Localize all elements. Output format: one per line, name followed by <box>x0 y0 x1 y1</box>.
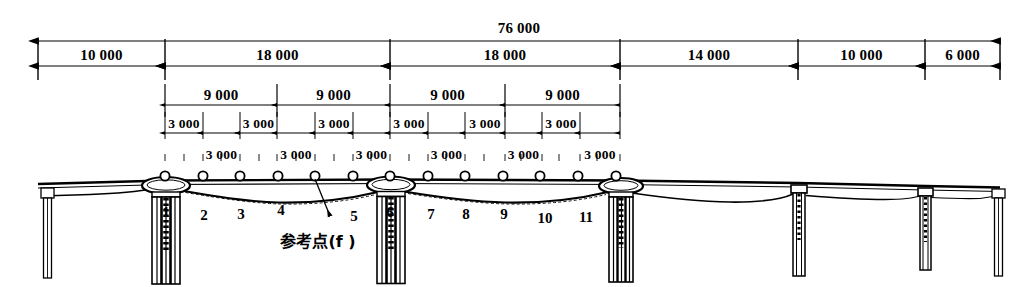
abutment-right <box>992 189 1005 276</box>
span-dimension-label: 6 000 <box>945 47 980 64</box>
measurement-point-circle[interactable] <box>235 171 244 180</box>
three-thousand-upper-label: 3 000 <box>243 116 274 132</box>
span-dimension-label: 18 000 <box>484 47 526 64</box>
three-thousand-upper-label: 3 000 <box>318 116 349 132</box>
three-thousand-lower-label: 3 000 <box>356 147 387 163</box>
span-dimension-label: 14 000 <box>688 47 730 64</box>
pier-1 <box>142 177 190 284</box>
measurement-point-number: 5 <box>350 208 358 225</box>
three-thousand-upper-label: 3 000 <box>393 116 424 132</box>
three-thousand-lower-label: 3 000 <box>206 147 237 163</box>
reference-point-annotation: 参考点(f ) <box>280 228 355 252</box>
nine-thousand-dimension-label: 9 000 <box>545 87 580 104</box>
three-thousand-upper-label: 3 000 <box>469 116 500 132</box>
girder-soffit-span-3 <box>632 193 793 202</box>
measurement-point-circle[interactable] <box>535 171 544 180</box>
three-thousand-upper-label: 3 000 <box>168 116 199 132</box>
measurement-point-number: 6 <box>386 204 394 221</box>
nine-thousand-dimension-label: 9 000 <box>316 87 351 104</box>
pier-4 <box>791 185 807 276</box>
measurement-point-circle[interactable] <box>198 171 207 180</box>
span-dimension-label: 10 000 <box>840 47 882 64</box>
measurement-point-number: 10 <box>538 210 553 227</box>
three-thousand-lower-label: 3 000 <box>584 147 615 163</box>
three-thousand-lower-label: 3 000 <box>431 147 462 163</box>
three-thousand-lower-label: 3 000 <box>280 147 311 163</box>
measurement-point-number: 3 <box>237 206 245 223</box>
bridge-structure-group <box>38 171 1005 284</box>
measurement-point-number: 2 <box>200 207 208 224</box>
drawing-canvas <box>0 0 1027 287</box>
measurement-point-circle[interactable] <box>385 171 394 180</box>
three-thousand-upper-label: 3 000 <box>545 116 576 132</box>
nine-thousand-dimension-label: 9 000 <box>204 87 239 104</box>
pier-5 <box>918 188 933 270</box>
measurement-point-circle[interactable] <box>573 171 582 180</box>
measurement-point-circle[interactable] <box>273 171 282 180</box>
overall-dimension-label: 76 000 <box>498 20 540 37</box>
measurement-point-number: 8 <box>462 206 470 223</box>
measurement-point-circle[interactable] <box>348 171 357 180</box>
measurement-point-circle[interactable] <box>498 171 507 180</box>
three-thousand-lower-label: 3 000 <box>508 147 539 163</box>
bridge-elevation-drawing: 76 000 10 00018 00018 00014 00010 0006 0… <box>0 0 1027 287</box>
abutment-left <box>41 188 54 278</box>
measurement-point-circle[interactable] <box>160 171 169 180</box>
nine-thousand-dimension-label: 9 000 <box>430 87 465 104</box>
measurement-point-number: 11 <box>579 209 593 226</box>
girder-soffit-span-4 <box>806 196 921 200</box>
span-dimension-label: 10 000 <box>80 47 122 64</box>
measurement-point-circle[interactable] <box>423 171 432 180</box>
reference-point-leader-line <box>315 179 330 216</box>
girder-soffit-span-5 <box>931 196 996 199</box>
measurement-point-circle[interactable] <box>460 171 469 180</box>
measurement-point-number: 4 <box>277 202 285 219</box>
measurement-point-number: 7 <box>427 206 435 223</box>
measurement-point-circle[interactable] <box>611 171 620 180</box>
measurement-point-number: 1 <box>162 204 170 221</box>
span-dimension-label: 18 000 <box>256 47 298 64</box>
measurement-point-number: 9 <box>500 206 508 223</box>
